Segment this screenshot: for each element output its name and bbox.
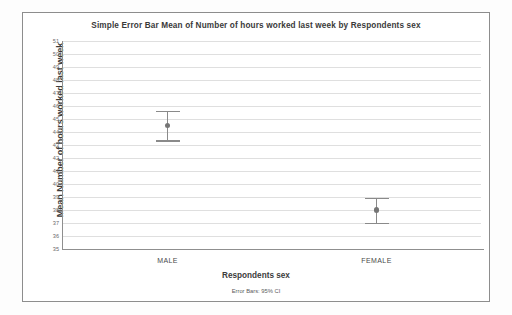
y-axis-tick-label: 39 <box>53 194 59 200</box>
screenshot-root: Simple Error Bar Mean of Number of hours… <box>0 0 512 315</box>
y-axis-tick-label: 45 <box>53 116 59 122</box>
gridline <box>63 54 481 55</box>
y-axis-tick-label: 41 <box>53 168 59 174</box>
gridline <box>63 93 481 94</box>
error-bar-upper-cap <box>365 198 389 199</box>
y-axis-tick-label: 35 <box>53 246 59 252</box>
chart-card: Simple Error Bar Mean of Number of hours… <box>22 12 490 302</box>
mean-marker <box>165 123 171 129</box>
plot-inner: 5150494847464544434241403938373635 <box>63 41 481 249</box>
error-bar-lower-cap <box>365 223 389 224</box>
gridline <box>63 158 481 159</box>
y-axis-tick-label: 44 <box>53 129 59 135</box>
y-axis-tick-label: 47 <box>53 90 59 96</box>
y-axis-tick-label: 36 <box>53 233 59 239</box>
gridline <box>63 67 481 68</box>
gridline <box>63 41 481 42</box>
gridline <box>63 119 481 120</box>
gridline <box>63 197 481 198</box>
error-bar-lower-cap <box>156 140 180 141</box>
gridline <box>63 210 481 211</box>
y-axis-tick-label: 49 <box>53 64 59 70</box>
chart-title: Simple Error Bar Mean of Number of hours… <box>23 21 489 30</box>
y-axis-tick-label: 40 <box>53 181 59 187</box>
gridline <box>63 132 481 133</box>
y-axis-tick-label: 50 <box>53 51 59 57</box>
error-bar-upper-cap <box>156 111 180 112</box>
x-axis-label-female: FEMALE <box>361 257 391 264</box>
y-axis-tick-label: 37 <box>53 220 59 226</box>
gridline <box>63 80 481 81</box>
y-axis-tick-label: 46 <box>53 103 59 109</box>
y-axis-tick-label: 38 <box>53 207 59 213</box>
chart-footnote: Error Bars: 95% CI <box>23 288 489 294</box>
gridline <box>63 171 481 172</box>
gridline <box>63 223 481 224</box>
y-axis-tick-label: 48 <box>53 77 59 83</box>
gridline <box>63 184 481 185</box>
x-axis-title: Respondents sex <box>23 271 489 280</box>
y-axis-tick-label: 42 <box>53 155 59 161</box>
y-axis-line <box>62 41 63 249</box>
gridline <box>63 145 481 146</box>
gridline <box>63 236 481 237</box>
x-axis-line <box>62 249 484 250</box>
plot-area: 5150494847464544434241403938373635 <box>63 41 481 249</box>
x-axis-label-male: MALE <box>157 257 178 264</box>
y-axis-tick-label: 43 <box>53 142 59 148</box>
gridline <box>63 106 481 107</box>
mean-marker <box>374 207 380 213</box>
y-axis-tick-label: 51 <box>53 38 59 44</box>
